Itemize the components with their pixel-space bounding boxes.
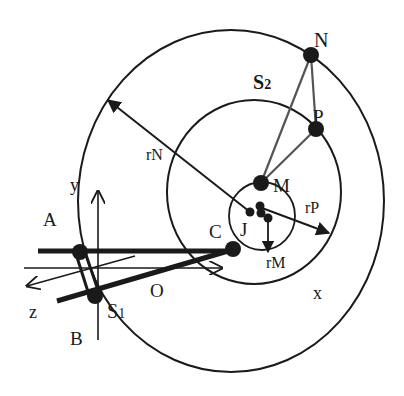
label-c: C bbox=[209, 221, 222, 242]
label-rp: rP bbox=[305, 199, 319, 216]
vector-rn bbox=[108, 100, 250, 212]
point-s1 bbox=[87, 288, 103, 304]
label-rm: rM bbox=[266, 254, 286, 271]
cluster-j bbox=[246, 202, 273, 223]
label-o: O bbox=[150, 280, 164, 301]
label-a: A bbox=[43, 209, 57, 230]
label-z: z bbox=[29, 302, 37, 322]
point-c bbox=[225, 241, 241, 257]
orbital-diagram: N P M S2 J C A B S1 O x y z rN rP rM bbox=[0, 0, 404, 396]
label-s1: S1 bbox=[107, 300, 125, 322]
label-j: J bbox=[240, 219, 247, 240]
label-y: y bbox=[70, 175, 79, 195]
label-b: B bbox=[70, 328, 83, 349]
label-x: x bbox=[313, 283, 322, 303]
point-m bbox=[253, 175, 269, 191]
label-s2: S2 bbox=[253, 71, 271, 93]
label-p: P bbox=[313, 106, 324, 127]
point-a bbox=[72, 244, 88, 260]
label-n: N bbox=[314, 29, 328, 51]
label-rn: rN bbox=[146, 146, 163, 163]
label-m: M bbox=[273, 175, 290, 196]
